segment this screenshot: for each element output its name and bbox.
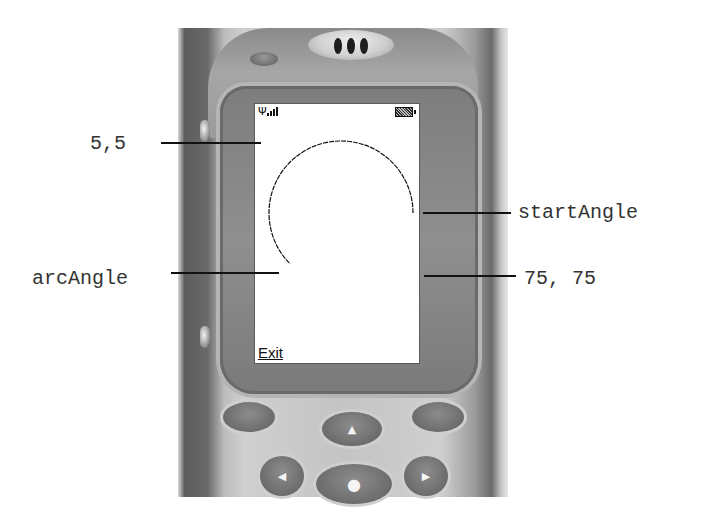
arc-path [269, 141, 413, 264]
phone-screen: Ψ Exit [254, 103, 420, 364]
arc-angle-label: arcAngle [32, 269, 128, 289]
speaker-hole-icon [347, 38, 355, 54]
side-key-lower[interactable] [200, 326, 210, 348]
origin-leader-line [161, 142, 261, 144]
origin-label: 5,5 [90, 134, 126, 154]
exit-softkey[interactable]: Exit [258, 344, 283, 361]
start-angle-leader-line [423, 212, 511, 214]
select-dot-icon: ● [347, 475, 361, 494]
nav-left-button[interactable]: ◀ [260, 456, 304, 496]
earpiece-speaker [308, 30, 394, 60]
right-arrow-icon: ▶ [422, 470, 430, 483]
right-soft-button[interactable] [412, 402, 464, 432]
size-leader-line [424, 275, 516, 277]
start-angle-label: startAngle [518, 203, 638, 223]
arc-angle-leader-line [171, 272, 279, 274]
speaker-hole-icon [360, 38, 368, 54]
phone-body: Ψ Exit ▲ ◀ ● ▶ [178, 28, 508, 497]
nav-up-button[interactable]: ▲ [322, 412, 382, 446]
nav-right-button[interactable]: ▶ [404, 456, 448, 496]
up-arrow-icon: ▲ [348, 423, 356, 436]
power-button[interactable] [250, 52, 278, 66]
size-label: 75, 75 [524, 269, 596, 289]
arc-drawing [255, 104, 419, 363]
speaker-hole-icon [334, 38, 342, 54]
left-arrow-icon: ◀ [278, 470, 286, 483]
left-soft-button[interactable] [223, 402, 275, 432]
side-volume-key[interactable] [200, 120, 210, 142]
nav-select-button[interactable]: ● [316, 464, 392, 504]
